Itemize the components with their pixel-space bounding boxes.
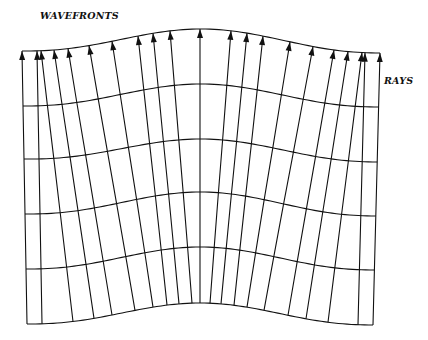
ray-line xyxy=(221,33,247,304)
ray-line xyxy=(264,47,313,311)
arrowhead-icon xyxy=(151,33,157,42)
ray-line xyxy=(170,31,192,303)
ray-line xyxy=(210,31,231,303)
arrowhead-icon xyxy=(88,46,94,55)
arrowhead-icon xyxy=(259,36,265,45)
wavefront-line xyxy=(24,139,377,162)
ray-line xyxy=(247,42,290,307)
arrowhead-icon xyxy=(286,42,292,51)
arrowhead-icon xyxy=(136,36,142,45)
arrowhead-icon xyxy=(110,41,116,50)
arrowhead-icon xyxy=(308,47,314,56)
wavefront-line xyxy=(27,303,373,325)
ray-line xyxy=(328,53,362,323)
wavefronts-label: WAVEFRONTS xyxy=(40,10,119,21)
ray-lines xyxy=(19,29,383,325)
ray-line xyxy=(41,51,73,322)
arrowhead-icon xyxy=(344,52,350,61)
ray-line xyxy=(37,51,42,324)
arrowhead-icon xyxy=(34,51,40,60)
arrowhead-icon xyxy=(66,49,72,58)
ray-line xyxy=(373,53,380,325)
ray-line xyxy=(112,41,153,307)
wavefront-lines xyxy=(22,29,380,325)
rays-label: RAYS xyxy=(384,75,413,86)
ray-line xyxy=(89,46,135,311)
ray-line xyxy=(153,33,179,304)
ray-line xyxy=(138,36,167,305)
ray-line xyxy=(22,51,27,324)
ray-line xyxy=(68,49,112,315)
ray-line xyxy=(54,50,94,318)
ray-line xyxy=(234,36,263,305)
ray-wavefront-diagram xyxy=(0,0,428,340)
arrowhead-icon xyxy=(377,53,383,62)
arrowhead-icon xyxy=(243,33,249,42)
arrowhead-icon xyxy=(19,51,25,60)
arrowhead-icon xyxy=(227,31,233,40)
arrowhead-icon xyxy=(330,50,336,59)
ray-line xyxy=(358,53,365,325)
arrowhead-icon xyxy=(168,31,174,40)
arrowhead-icon xyxy=(52,50,58,59)
arrowhead-icon xyxy=(197,29,203,38)
arrowhead-icon xyxy=(39,51,45,60)
